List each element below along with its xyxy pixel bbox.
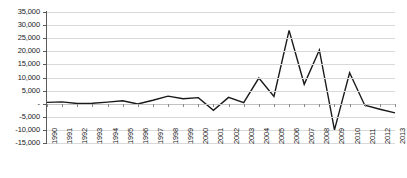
x-axis-tick-label: 1990 [50, 128, 59, 144]
x-axis-tick-mark [62, 104, 63, 107]
gridline [47, 25, 395, 26]
x-axis-tick-label: 2003 [247, 128, 256, 144]
y-axis-tick-label: -5,000 [19, 113, 40, 121]
y-axis-tick-label: -15,000 [15, 139, 40, 147]
x-axis-tick-label: 2000 [201, 128, 210, 144]
x-axis-tick-label: 2006 [292, 128, 301, 144]
y-axis-tick-label: 5,000 [22, 87, 40, 95]
x-axis-tick-mark [77, 104, 78, 107]
x-axis-tick-label: 2013 [398, 128, 407, 144]
x-axis-tick-label: 1998 [171, 128, 180, 144]
x-axis-tick-label: 1996 [141, 128, 150, 144]
y-axis-tick-label: 15,000 [18, 60, 40, 68]
y-axis-tick-mark [43, 51, 47, 52]
x-axis-tick-label: 1997 [156, 128, 165, 144]
y-axis-tick-mark [43, 25, 47, 26]
gridline [47, 12, 395, 13]
y-axis-tick-mark [43, 38, 47, 39]
x-axis-tick-mark [319, 104, 320, 107]
x-axis-tick-mark [47, 104, 48, 107]
x-axis-tick-mark [289, 104, 290, 107]
x-axis-tick-mark [274, 104, 275, 107]
y-axis-tick-label: 20,000 [18, 47, 40, 55]
x-axis-tick-mark [138, 104, 139, 107]
y-axis-tick-mark [43, 64, 47, 65]
zero-line [47, 104, 395, 105]
x-axis-tick-label: 2002 [232, 128, 241, 144]
x-axis-tick-mark [108, 104, 109, 107]
y-axis-tick-labels: 35,00030,00025,00020,00015,00010,0005,00… [0, 0, 46, 178]
x-axis-tick-mark [183, 104, 184, 107]
gridline [47, 64, 395, 65]
x-axis-tick-mark [92, 104, 93, 107]
x-axis-tick-mark [259, 104, 260, 107]
y-axis-tick-mark [43, 78, 47, 79]
x-axis-tick-label: 1993 [95, 128, 104, 144]
y-axis-tick-mark [43, 117, 47, 118]
x-axis-tick-label: 2012 [383, 128, 392, 144]
x-axis-tick-label: 1995 [126, 128, 135, 144]
x-axis-tick-label: 1991 [65, 128, 74, 144]
gridline [47, 78, 395, 79]
x-axis-tick-label: 1999 [186, 128, 195, 144]
y-axis-tick-label: -10,000 [15, 126, 40, 134]
x-axis-tick-labels: 1990199119921993199419951996199719981999… [47, 143, 395, 178]
x-axis-tick-mark [334, 104, 335, 107]
x-axis-tick-mark [244, 104, 245, 107]
x-axis-tick-mark [229, 104, 230, 107]
x-axis-tick-label: 1992 [80, 128, 89, 144]
x-axis-tick-label: 2009 [337, 128, 346, 144]
gridline [47, 38, 395, 39]
x-axis-tick-label: 1994 [111, 128, 120, 144]
y-axis-tick-mark [43, 12, 47, 13]
x-axis-tick-label: 2007 [307, 128, 316, 144]
x-axis-tick-mark [213, 104, 214, 107]
y-axis-tick-label: 25,000 [18, 34, 40, 42]
x-axis-tick-mark [168, 104, 169, 107]
x-axis-tick-label: 2010 [353, 128, 362, 144]
x-axis-tick-mark [395, 104, 396, 107]
x-axis-tick-mark [380, 104, 381, 107]
x-axis-tick-label: 2008 [322, 128, 331, 144]
x-axis-tick-mark [123, 104, 124, 107]
gridline [47, 51, 395, 52]
y-axis-tick-mark [43, 143, 47, 144]
y-axis-tick-label: 10,000 [18, 74, 40, 82]
x-axis-tick-mark [304, 104, 305, 107]
plot-area [47, 12, 395, 143]
x-axis-tick-mark [153, 104, 154, 107]
x-axis-tick-label: 2011 [368, 129, 377, 144]
x-axis-tick-mark [365, 104, 366, 107]
series-line-path [47, 30, 395, 130]
gridline [47, 91, 395, 92]
x-axis-tick-label: 2001 [216, 128, 225, 144]
y-axis-tick-mark [43, 91, 47, 92]
y-axis-tick-mark [43, 104, 47, 105]
x-axis-tick-label: 2005 [277, 128, 286, 144]
x-axis-tick-label: 2004 [262, 128, 271, 144]
x-axis-tick-mark [198, 104, 199, 107]
y-axis-tick-label: - [38, 100, 40, 108]
y-axis-tick-mark [43, 130, 47, 131]
x-axis-tick-mark [350, 104, 351, 107]
gridline [47, 117, 395, 118]
y-axis-tick-label: 30,000 [18, 21, 40, 29]
y-axis-tick-label: 35,000 [18, 8, 40, 16]
